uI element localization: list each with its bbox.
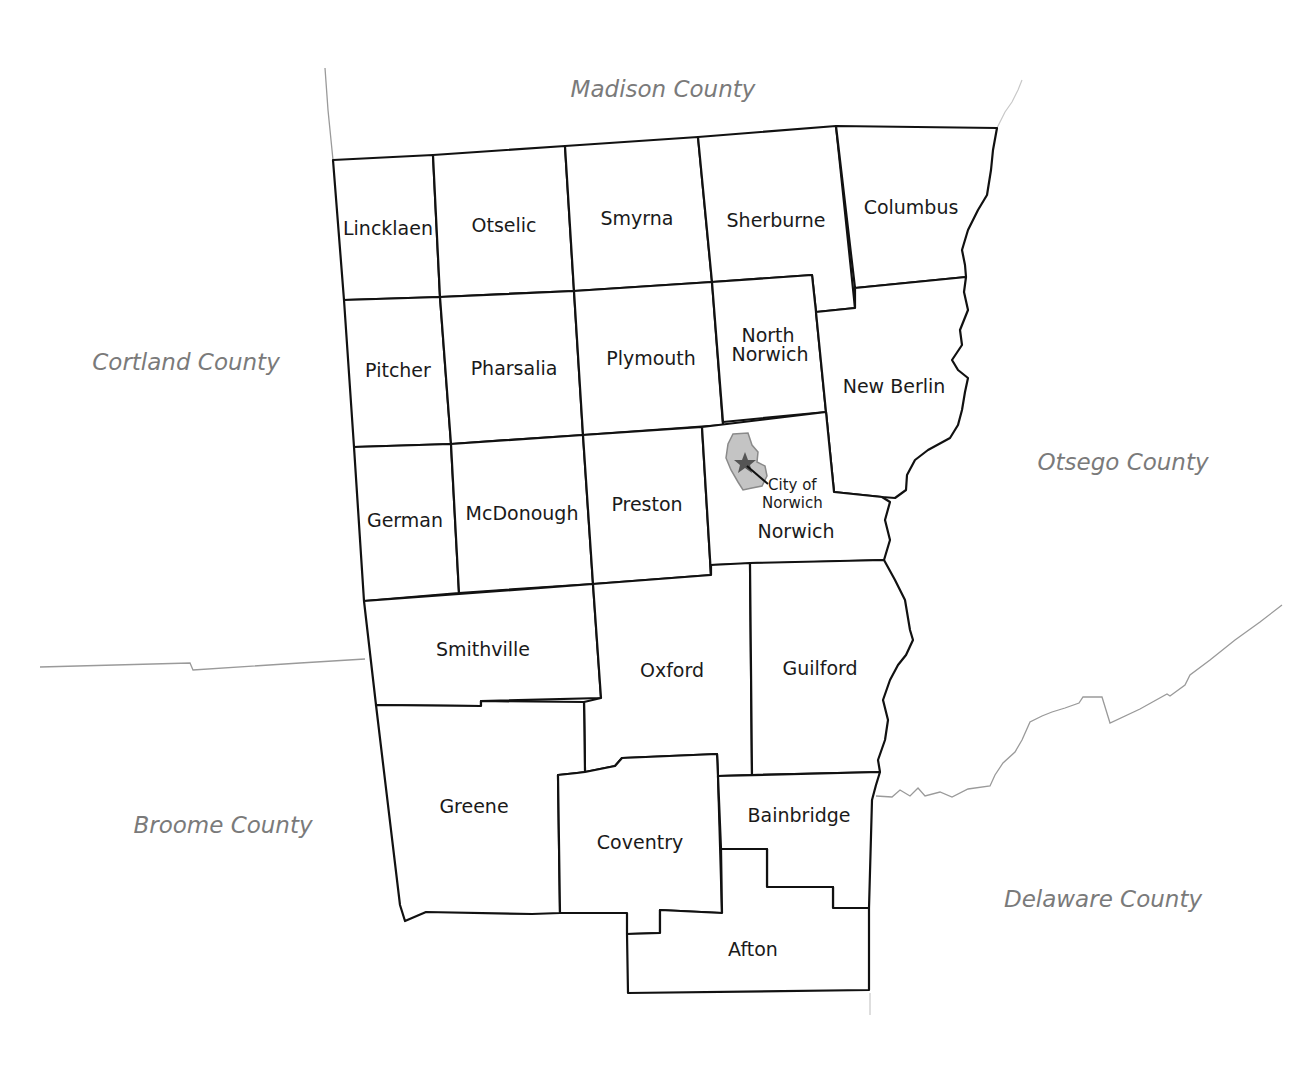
label-north-norwich-2: Norwich [732,343,809,365]
label-lincklaen: Lincklaen [343,217,433,239]
label-broome-county: Broome County [133,812,313,838]
towns [333,126,997,993]
madison-otsego-boundary [997,80,1022,128]
label-otselic: Otselic [472,214,537,236]
label-columbus: Columbus [864,196,959,218]
label-madison-county: Madison County [571,76,756,102]
label-smithville: Smithville [436,638,530,660]
label-oxford: Oxford [640,659,704,681]
label-pitcher: Pitcher [365,359,431,381]
city-label-line1: City of [768,476,817,494]
label-plymouth: Plymouth [606,347,696,369]
label-coventry: Coventry [597,831,683,853]
label-german: German [367,509,443,531]
label-delaware-county: Delaware County [1004,886,1202,912]
label-afton: Afton [728,938,778,960]
label-mcdonough: McDonough [466,502,579,524]
label-smyrna: Smyrna [601,207,674,229]
cortland-broome-boundary [40,659,365,670]
label-preston: Preston [611,493,682,515]
otsego-delaware-boundary [876,605,1282,797]
label-cortland-county: Cortland County [92,349,280,375]
label-norwich: Norwich [758,520,835,542]
label-greene: Greene [439,795,508,817]
label-new-berlin: New Berlin [843,375,946,397]
chenango-county-map: City of Norwich Lincklaen Otselic Smyrna… [0,0,1296,1069]
label-otsego-county: Otsego County [1037,449,1209,475]
label-pharsalia: Pharsalia [471,357,558,379]
madison-cortland-boundary [325,68,333,160]
label-guilford: Guilford [782,657,857,679]
label-bainbridge: Bainbridge [748,804,851,826]
city-label-line2: Norwich [762,494,823,512]
label-sherburne: Sherburne [727,209,826,231]
